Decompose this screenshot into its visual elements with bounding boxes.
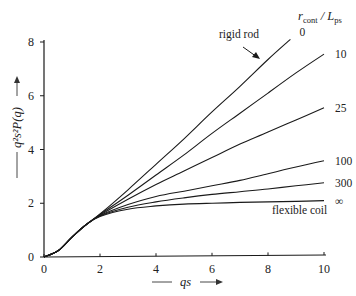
series-label: 25 <box>335 102 347 114</box>
series-label: 10 <box>335 48 347 60</box>
curve-rigid-rod <box>44 39 290 257</box>
y-tick-label: 2 <box>28 196 34 210</box>
y-tick-label: 6 <box>28 89 34 103</box>
y-tick-label: 8 <box>28 35 34 49</box>
svg-text:qs: qs <box>180 275 191 289</box>
curve-r-10 <box>44 54 324 257</box>
x-tick-label: 6 <box>209 262 215 276</box>
series-labels: 01025100300∞ <box>299 26 352 206</box>
curves <box>44 39 324 257</box>
curve-r-300 <box>44 183 324 257</box>
flexible-coil-annotation: flexible coil <box>272 204 327 216</box>
y-tick-label: 4 <box>28 143 34 157</box>
y-ticks: 02468 <box>28 35 44 264</box>
rigid-rod-arrow-icon <box>243 47 260 59</box>
rigid-rod-annotation: rigid rod <box>219 28 259 41</box>
y-tick-label: 0 <box>28 250 34 264</box>
curve-r-25 <box>44 108 324 257</box>
x-axis-title: qs <box>152 275 223 289</box>
svg-text:q²s²P(q): q²s²P(q) <box>10 107 24 148</box>
x-tick-label: 4 <box>153 262 159 276</box>
y-axis-title: q²s²P(q) <box>10 76 24 178</box>
series-label: ∞ <box>335 195 343 207</box>
legend-title: rcont / Lps <box>298 9 342 25</box>
x-tick-label: 10 <box>318 262 330 276</box>
x-tick-label: 0 <box>41 262 47 276</box>
scattering-function-chart: 02468 0246810 01025100300∞ rcont / Lps r… <box>0 0 356 296</box>
series-label: 300 <box>335 177 353 189</box>
x-tick-label: 2 <box>97 262 103 276</box>
x-tick-label: 8 <box>265 262 271 276</box>
x-axis <box>44 255 326 257</box>
series-label: 100 <box>335 155 353 167</box>
series-label: 0 <box>299 26 305 38</box>
